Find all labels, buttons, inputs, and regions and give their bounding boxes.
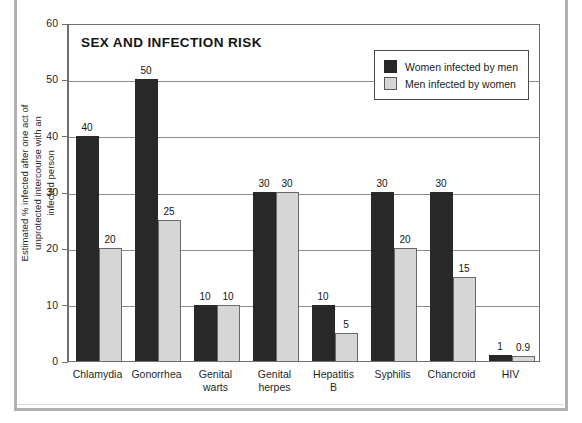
y-axis-tick-label: 20 xyxy=(36,242,58,254)
bar-value-label: 30 xyxy=(435,178,446,189)
bar-group: 3015 xyxy=(429,23,477,361)
bar[interactable]: 15 xyxy=(453,277,476,362)
y-axis-tick-label: 50 xyxy=(36,73,58,85)
bar[interactable]: 25 xyxy=(158,220,181,361)
page-frame-left-rule xyxy=(14,0,17,411)
bar-group: 4020 xyxy=(75,23,123,361)
bar-value-label: 10 xyxy=(317,291,328,302)
x-axis-label-line: HIV xyxy=(471,368,551,381)
bar-value-label: 50 xyxy=(140,65,151,76)
bar[interactable]: 50 xyxy=(135,79,158,361)
plot-area: SEX AND INFECTION RISK Women infected by… xyxy=(68,24,540,362)
bar-value-label: 15 xyxy=(458,263,469,274)
chart-figure: Estimated % infected after one act of un… xyxy=(0,0,582,423)
bar[interactable]: 30 xyxy=(253,192,276,361)
y-axis-tick-label: 30 xyxy=(36,186,58,198)
bar-value-label: 25 xyxy=(163,206,174,217)
bar[interactable]: 5 xyxy=(335,333,358,361)
x-axis-label-line: B xyxy=(294,381,374,394)
bar-value-label: 30 xyxy=(258,178,269,189)
bar-value-label: 20 xyxy=(104,234,115,245)
bar-value-label: 20 xyxy=(399,234,410,245)
page-frame-right-rule xyxy=(565,0,568,411)
bars-layer: 40205025101030301053020301510.9 xyxy=(69,25,539,361)
bar-group: 3020 xyxy=(370,23,418,361)
bar-group: 105 xyxy=(311,23,359,361)
bar-value-label: 5 xyxy=(343,319,349,330)
bar-value-label: 0.9 xyxy=(516,342,530,353)
bar[interactable]: 30 xyxy=(430,192,453,361)
y-axis-tick-label: 40 xyxy=(36,130,58,142)
y-axis-tick-label: 10 xyxy=(36,299,58,311)
y-axis-tick-label: 60 xyxy=(36,17,58,29)
bar[interactable]: 20 xyxy=(394,248,417,361)
bar-group: 3030 xyxy=(252,23,300,361)
x-axis-label: HIV xyxy=(471,368,551,381)
bar-group: 5025 xyxy=(134,23,182,361)
bar[interactable]: 0.9 xyxy=(512,356,535,361)
bar[interactable]: 30 xyxy=(371,192,394,361)
bar[interactable]: 1 xyxy=(489,355,512,361)
bar-value-label: 1 xyxy=(497,341,503,352)
bar-group: 10.9 xyxy=(488,23,536,361)
bar[interactable]: 40 xyxy=(76,136,99,361)
bar-value-label: 10 xyxy=(222,291,233,302)
bar[interactable]: 10 xyxy=(312,305,335,361)
bar-value-label: 10 xyxy=(199,291,210,302)
bar-value-label: 40 xyxy=(81,122,92,133)
bar[interactable]: 10 xyxy=(217,305,240,361)
bar[interactable]: 30 xyxy=(276,192,299,361)
bar-value-label: 30 xyxy=(376,178,387,189)
page-frame-inner-rule xyxy=(18,404,564,405)
bar[interactable]: 20 xyxy=(99,248,122,361)
bar-value-label: 30 xyxy=(281,178,292,189)
y-axis-tick-label: 0 xyxy=(36,355,58,367)
bar-group: 1010 xyxy=(193,23,241,361)
page-frame-bottom-rule xyxy=(14,408,568,411)
bar[interactable]: 10 xyxy=(194,305,217,361)
